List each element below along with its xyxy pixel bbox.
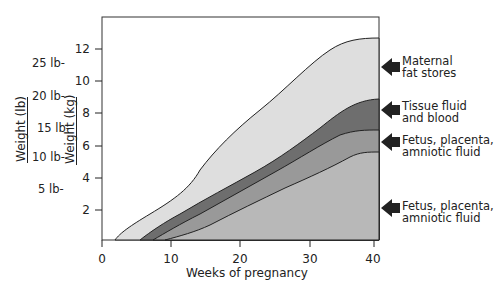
- x-axis-title: Weeks of pregnancy: [186, 267, 308, 279]
- annotation-line: and blood: [402, 112, 467, 124]
- arrow-icon: [381, 133, 400, 151]
- x-axis-ticks: [102, 240, 374, 247]
- annotation-tissue-fluid: Tissue fluid and blood: [402, 100, 467, 124]
- annotation-arrows: [381, 58, 400, 217]
- lb-tick-label: 5 lb-: [38, 182, 64, 196]
- y-axis-title-lb: Weight (lb): [14, 96, 28, 162]
- x-tick-label: 10: [156, 252, 186, 266]
- x-tick-label: 40: [358, 252, 388, 266]
- x-tick-label: 20: [225, 252, 255, 266]
- lb-tick-label: 25 lb-: [32, 56, 65, 70]
- arrow-icon: [381, 58, 400, 76]
- annotation-line: fat stores: [402, 67, 456, 79]
- arrow-icon: [381, 199, 400, 217]
- y-tick-label: 10: [60, 74, 90, 88]
- annotation-maternal-fat: Maternal fat stores: [402, 55, 456, 79]
- y-axis-title-kg: Weight (kg): [63, 94, 77, 164]
- annotation-fetus-lower: Fetus, placenta, amniotic fluid: [402, 200, 494, 224]
- lb-tick-label: 20 lb-: [32, 89, 65, 103]
- arrow-icon: [381, 101, 400, 119]
- lb-tick-label: 10 lb-: [32, 150, 65, 164]
- annotation-line: amniotic fluid: [402, 146, 494, 158]
- x-tick-label: 0: [87, 252, 117, 266]
- x-tick-label: 30: [295, 252, 325, 266]
- annotation-fetus-upper: Fetus, placenta, amniotic fluid: [402, 134, 494, 158]
- y-tick-label: 2: [60, 203, 90, 217]
- annotation-line: amniotic fluid: [402, 212, 494, 224]
- y-tick-label: 12: [60, 42, 90, 56]
- underline: [27, 97, 28, 163]
- underline: [76, 97, 77, 165]
- y-axis-ticks: [95, 49, 102, 210]
- y-tick-label: 4: [60, 171, 90, 185]
